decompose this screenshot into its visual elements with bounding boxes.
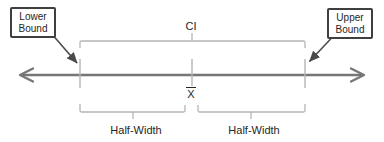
lower-bound-pointer-arrow — [54, 37, 77, 64]
confidence-interval-diagram: Lower Bound Upper Bound CI X Half-Width … — [0, 0, 384, 142]
mean-xbar-text: X — [186, 87, 196, 100]
mean-label: X — [183, 87, 199, 100]
lower-bound-label: Lower Bound — [19, 11, 48, 35]
upper-bound-pointer-arrow — [310, 38, 333, 62]
half-width-right-bracket — [198, 104, 305, 112]
upper-bound-label: Upper Bound — [336, 12, 365, 36]
half-width-right-label: Half-Width — [219, 124, 289, 136]
lower-bound-box: Lower Bound — [10, 7, 56, 38]
ci-bracket — [80, 41, 305, 48]
half-width-left-bracket — [80, 104, 185, 112]
upper-bound-box: Upper Bound — [327, 8, 373, 39]
ci-label: CI — [178, 20, 204, 32]
half-width-left-label: Half-Width — [101, 124, 171, 136]
